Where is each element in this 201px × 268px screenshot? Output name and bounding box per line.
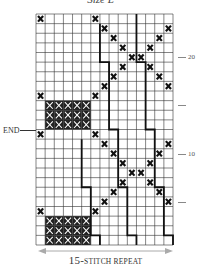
row-marker-tick (178, 105, 186, 106)
row-marker-label: 10 (188, 150, 195, 158)
row-marker-tick (178, 202, 186, 203)
cross-stitch-icon (166, 141, 171, 147)
cross-stitch-icon (166, 83, 171, 89)
cross-stitch-icon (148, 45, 153, 51)
row-marker-tick (178, 154, 186, 155)
cross-stitch-icon (111, 151, 116, 157)
cross-stitch-icon (102, 26, 107, 32)
cross-stitch-icon (129, 55, 134, 61)
cross-stitch-icon (93, 209, 98, 215)
cross-stitch-icon (148, 160, 153, 166)
cross-stitch-icon (111, 74, 116, 80)
cross-stitch-icon (102, 199, 107, 205)
cross-stitch-icon (120, 160, 125, 166)
cross-stitch-icon (148, 180, 153, 186)
cross-stitch-icon (166, 26, 171, 32)
cross-stitch-icon (111, 189, 116, 195)
cross-stitch-icon (157, 35, 162, 41)
cross-stitch-icon (157, 189, 162, 195)
cross-stitch-icon (166, 199, 171, 205)
cross-stitch-icon (93, 132, 98, 138)
end-label: END (3, 126, 19, 135)
cross-stitch-icon (120, 180, 125, 186)
cross-stitch-icon (38, 209, 43, 215)
repeat-text: STITCH REPEAT (84, 257, 142, 266)
cross-stitch-icon (38, 132, 43, 138)
cross-stitch-icon (138, 55, 143, 61)
cross-stitch-icon (38, 16, 43, 22)
stitch-chart-grid (36, 14, 173, 245)
cross-stitch-icon (38, 93, 43, 99)
row-marker-label: 20 (188, 53, 195, 61)
cross-stitch-icon (157, 151, 162, 157)
cross-stitch-icon (157, 74, 162, 80)
cross-stitch-icon (93, 93, 98, 99)
cross-stitch-icon (93, 16, 98, 22)
cross-stitch-icon (111, 35, 116, 41)
repeat-label: 15-STITCH REPEAT (0, 254, 201, 266)
grid-canvas (36, 14, 173, 245)
cross-stitch-icon (138, 170, 143, 176)
cross-stitch-icon (102, 83, 107, 89)
cross-stitch-icon (129, 170, 134, 176)
repeat-count: 15- (69, 254, 84, 266)
cross-stitch-icon (120, 64, 125, 70)
cross-stitch-icon (148, 64, 153, 70)
cross-stitch-icon (102, 141, 107, 147)
chart-title: Size L (0, 0, 201, 5)
cross-stitch-icon (120, 45, 125, 51)
end-pointer-line (20, 130, 36, 131)
row-marker-tick (178, 57, 186, 58)
